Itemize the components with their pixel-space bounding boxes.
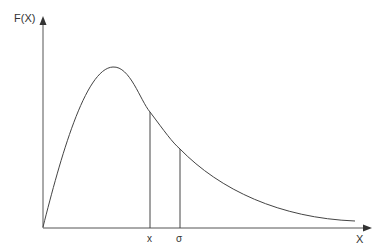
y-axis-arrow-icon [40, 16, 47, 25]
x-axis-arrow-icon [363, 225, 372, 232]
density-diagram: F(X) X x σ [0, 0, 387, 252]
marker-label-sigma: σ [176, 233, 183, 244]
y-axis-label: F(X) [14, 12, 35, 24]
x-axis-label: X [356, 233, 364, 245]
diagram-canvas: F(X) X x σ [0, 0, 387, 252]
marker-label-x: x [147, 233, 152, 244]
density-curve [43, 67, 355, 227]
